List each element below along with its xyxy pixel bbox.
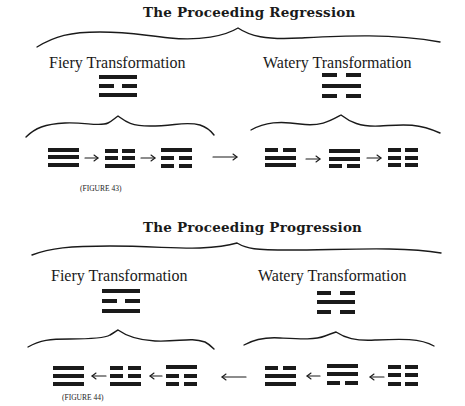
figure44-fiery-trigram [102,289,140,313]
figure44-arrow-1 [92,373,106,379]
figure44-seq-trigram-4 [265,366,296,386]
figure43-seq-trigram-6 [388,148,418,167]
trigram-transformation-diagram: The Proceeding Regression Fiery Transfor… [0,0,465,406]
figure44-seq-trigram-5 [327,364,358,385]
figure43-watery-brace [251,115,440,133]
diagram-graphics [0,0,465,406]
figure43-seq-trigram-4 [265,148,296,167]
figure43-arrow-4 [367,155,381,161]
figure44-arrow-long [222,374,246,380]
figure43-arrow-2 [141,155,155,161]
figure43-arrow-long [213,154,237,160]
figure44-main-brace [32,243,441,255]
figure44-arrow-4 [370,374,384,380]
figure43-fiery-brace [26,116,214,137]
figure44-watery-trigram [317,291,355,314]
figure43-watery-trigram [322,73,361,98]
figure43-seq-trigram-2 [105,149,135,168]
figure43-arrow-1 [85,155,98,161]
figure43-seq-trigram-5 [329,149,360,168]
figure44-watery-brace [244,332,434,346]
figure44-fiery-brace [28,330,214,349]
figure44-seq-trigram-1 [53,366,84,386]
figure44-arrow-2 [150,373,162,379]
figure44-seq-trigram-6 [388,365,418,386]
figure43-main-brace [37,28,440,47]
figure43-seq-trigram-1 [48,148,79,167]
figure43-arrow-3 [306,156,320,162]
figure44-seq-trigram-2 [110,366,141,386]
figure44-seq-trigram-3 [166,365,197,386]
figure44-arrow-3 [307,373,320,379]
figure43-fiery-trigram [99,75,137,97]
figure43-seq-trigram-3 [161,148,192,168]
